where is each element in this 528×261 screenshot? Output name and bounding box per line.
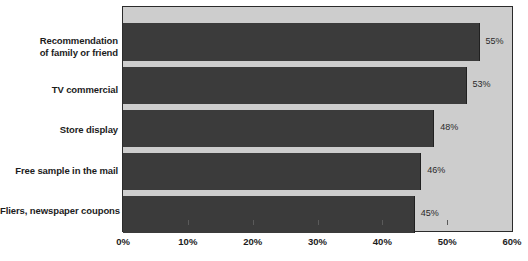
category-label-line1: Store display	[60, 124, 118, 135]
x-tick-mark	[253, 220, 254, 225]
x-tick-label: 50%	[438, 236, 457, 247]
category-label-line1: TV commercial	[52, 84, 118, 95]
bar-fliers-coupons	[123, 196, 415, 233]
bar-value-store-display: 48%	[440, 122, 458, 132]
bar-free-sample	[123, 153, 421, 190]
x-tick-mark	[188, 220, 189, 225]
bar-tv-commercial	[123, 67, 467, 104]
bar-chart: Recommendation of family or friend TV co…	[0, 0, 528, 261]
category-label-line1: Fliers, newspaper coupons	[0, 205, 120, 216]
bar-value-fliers-coupons: 45%	[421, 208, 439, 218]
category-axis-labels: Recommendation of family or friend TV co…	[0, 6, 118, 231]
category-label-recommendation: Recommendation of family or friend	[0, 35, 118, 58]
bar-recommendation	[123, 23, 480, 61]
bar-value-free-sample: 46%	[427, 165, 445, 175]
bar-store-display	[123, 110, 434, 147]
x-tick-label: 30%	[308, 236, 327, 247]
x-tick-mark	[382, 220, 383, 225]
x-tick-label: 40%	[373, 236, 392, 247]
category-label-fliers-coupons: Fliers, newspaper coupons	[0, 205, 118, 217]
bar-value-recommendation: 55%	[486, 36, 504, 46]
plot-area: 55% 53% 48% 46% 45%	[122, 6, 513, 232]
category-label-line1: Free sample in the mail	[15, 165, 118, 176]
x-tick-mark	[447, 220, 448, 225]
x-tick-label: 0%	[116, 236, 130, 247]
category-label-store-display: Store display	[0, 124, 118, 136]
x-tick-label: 60%	[502, 236, 521, 247]
category-label-line1: Recommendation	[40, 35, 118, 46]
category-label-tv-commercial: TV commercial	[0, 84, 118, 96]
x-tick-mark	[318, 220, 319, 225]
bar-value-tv-commercial: 53%	[473, 79, 491, 89]
category-label-free-sample: Free sample in the mail	[0, 165, 118, 177]
category-label-line2: of family or friend	[40, 47, 118, 58]
x-tick-label: 10%	[178, 236, 197, 247]
x-tick-label: 20%	[243, 236, 262, 247]
